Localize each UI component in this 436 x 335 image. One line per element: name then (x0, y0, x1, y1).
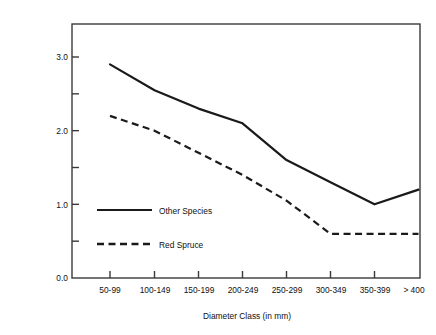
y-axis-ticks (72, 57, 79, 241)
x-axis-ticks (110, 271, 375, 278)
series-line-red-spruce (110, 116, 419, 234)
series-line-other-species (110, 64, 419, 204)
chart-figure: Density of Live Trees by Diameter Class … (0, 0, 436, 335)
plot-frame (72, 24, 420, 278)
plot-area (0, 0, 436, 335)
